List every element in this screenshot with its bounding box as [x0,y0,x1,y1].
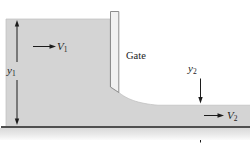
y2-arrowhead-down-icon [198,97,202,104]
gate-plate [111,12,119,93]
v2-velocity-label: V2 [227,109,237,121]
gate-label: Gate [126,50,146,62]
diagram-canvas [0,0,250,147]
y2-depth-label: y2 [188,62,197,74]
v1-velocity-label: V1 [57,40,67,52]
ground-shading [0,128,250,140]
sluice-gate-diagram: y1 V1 Gate y2 V2 [0,0,250,147]
water-body [6,19,250,127]
y1-depth-label: y1 [7,64,16,76]
